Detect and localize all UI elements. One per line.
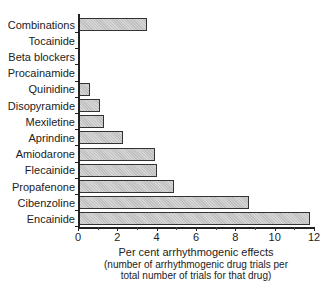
category-label: Quinidine: [29, 83, 75, 95]
x-axis-subtitle-line2: total number of trials for that drug): [78, 270, 314, 282]
category-label: Mexiletine: [25, 116, 75, 128]
x-tick: [255, 227, 256, 230]
category-label: Encainide: [27, 213, 75, 225]
category-label: Disopyramide: [8, 100, 75, 112]
x-tick-label: 0: [68, 231, 88, 243]
x-tick-label: 4: [147, 231, 167, 243]
x-tick-label: 8: [225, 231, 245, 243]
category-label: Beta blockers: [8, 51, 75, 63]
x-tick-label: 2: [107, 231, 127, 243]
category-label: Procainamide: [8, 67, 75, 79]
x-tick: [216, 227, 217, 230]
x-tick-label: 10: [265, 231, 285, 243]
category-label: Combinations: [8, 19, 75, 31]
x-tick: [137, 227, 138, 230]
category-label: Aprindine: [29, 132, 75, 144]
x-tick-label: 12: [304, 231, 324, 243]
category-label: Flecainide: [25, 164, 75, 176]
bar: [78, 18, 147, 31]
bar: [78, 99, 100, 112]
bar: [78, 180, 174, 193]
bar: [78, 115, 104, 128]
x-axis-title: Per cent arrhythmogenic effects: [78, 246, 314, 258]
x-tick: [294, 227, 295, 230]
x-tick-label: 6: [186, 231, 206, 243]
category-label: Cibenzoline: [18, 197, 75, 209]
bar: [78, 131, 123, 144]
bar: [78, 148, 155, 161]
category-label: Amiodarone: [16, 148, 75, 160]
category-label: Tocainide: [29, 35, 75, 47]
bar: [78, 212, 310, 225]
bar-chart: CombinationsTocainideBeta blockersProcai…: [0, 0, 333, 283]
bar: [78, 164, 157, 177]
bar: [78, 83, 90, 96]
y-axis: [78, 14, 80, 228]
category-label: Propafenone: [12, 181, 75, 193]
x-tick: [98, 227, 99, 230]
bar: [78, 196, 249, 209]
x-tick: [176, 227, 177, 230]
